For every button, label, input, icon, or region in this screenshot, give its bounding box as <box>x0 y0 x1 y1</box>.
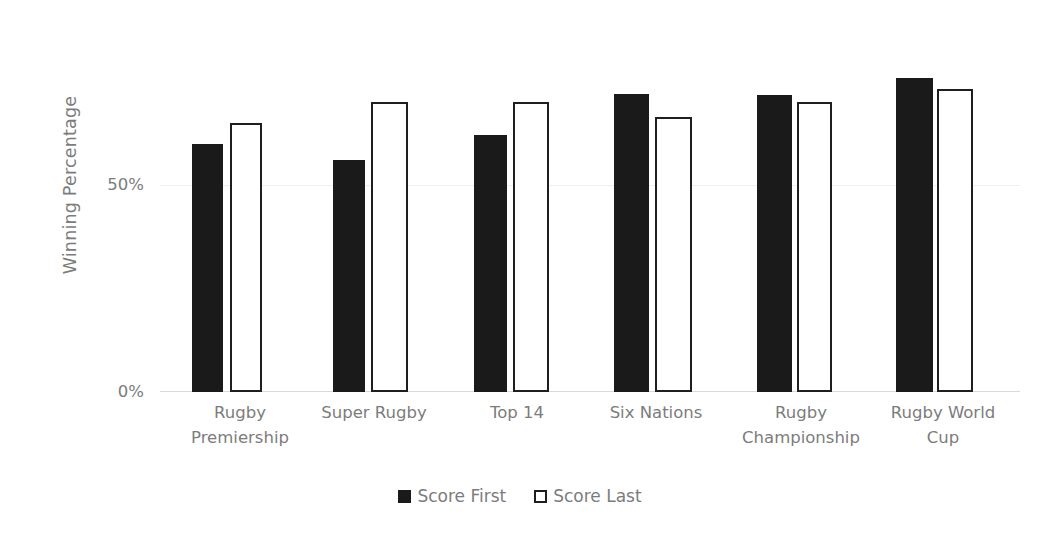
y-tick-label-50: 50% <box>88 175 144 195</box>
bar-score-first-top-14 <box>474 135 507 392</box>
bar-score-first-six-nations <box>614 94 649 392</box>
x-axis-label-rugby-championship: Rugby Championship <box>719 400 883 450</box>
bar-score-first-super-rugby <box>333 160 365 392</box>
y-axis-title: Winning Percentage <box>57 55 83 315</box>
bar-chart: Winning Percentage 50% 0% Rugby Premiers… <box>0 0 1040 534</box>
chart-legend: Score First Score Last <box>0 486 1040 506</box>
x-axis-label-line1: Rugby World <box>868 400 1018 425</box>
x-axis-label-line2: Championship <box>719 425 883 450</box>
x-axis-label-line1: Six Nations <box>583 400 729 425</box>
x-axis-label-line1: Super Rugby <box>300 400 448 425</box>
x-axis-line <box>160 391 1020 392</box>
x-axis-label-super-rugby: Super Rugby <box>300 400 448 425</box>
bar-score-first-rugby-premiership <box>192 144 223 392</box>
bar-score-first-rugby-championship <box>757 95 792 392</box>
bar-score-last-rugby-world-cup <box>937 89 973 392</box>
x-axis-label-six-nations: Six Nations <box>583 400 729 425</box>
x-axis-label-rugby-premiership: Rugby Premiership <box>170 400 310 450</box>
legend-item-score-last[interactable]: Score Last <box>534 486 641 506</box>
x-axis-label-line1: Top 14 <box>447 400 587 425</box>
x-axis-label-top-14: Top 14 <box>447 400 587 425</box>
filled-square-icon <box>398 490 411 503</box>
plot-area <box>160 40 1020 392</box>
gridline-50 <box>160 185 1020 186</box>
x-axis-label-line2: Premiership <box>170 425 310 450</box>
x-axis-label-line1: Rugby <box>170 400 310 425</box>
bar-score-last-rugby-championship <box>797 102 832 392</box>
x-axis-label-line2: Cup <box>868 425 1018 450</box>
outline-square-icon <box>534 490 547 503</box>
y-tick-label-0: 0% <box>88 382 144 402</box>
x-axis-label-line1: Rugby <box>719 400 883 425</box>
x-axis-label-rugby-world-cup: Rugby World Cup <box>868 400 1018 450</box>
bar-score-last-super-rugby <box>371 102 408 392</box>
legend-label-score-first: Score First <box>417 486 506 506</box>
bar-score-first-rugby-world-cup <box>896 78 933 392</box>
legend-item-score-first[interactable]: Score First <box>398 486 506 506</box>
bar-score-last-rugby-premiership <box>230 123 262 392</box>
bar-score-last-top-14 <box>513 102 549 392</box>
legend-label-score-last: Score Last <box>553 486 641 506</box>
bar-score-last-six-nations <box>655 117 692 392</box>
